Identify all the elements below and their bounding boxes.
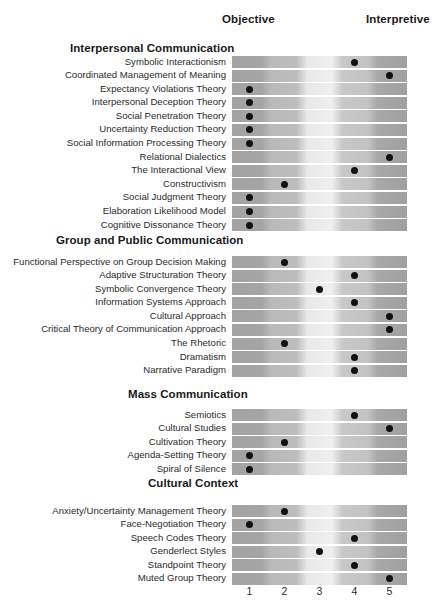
theory-label: Social Judgment Theory [123,191,226,203]
theory-row: Functional Perspective on Group Decision… [0,256,444,268]
theory-row: Cultivation Theory [0,436,444,448]
placement-dot [351,412,358,419]
theory-row: The Interactional View [0,165,444,177]
objective-interpretive-gradient-bar [232,283,407,295]
objective-interpretive-gradient-bar [232,56,407,68]
x-tick-1: 1 [247,585,253,597]
theory-label: Agenda-Setting Theory [128,449,227,461]
objective-interpretive-gradient-bar [232,409,407,421]
theory-row: Uncertainty Reduction Theory [0,124,444,136]
objective-interpretive-gradient-bar [232,270,407,282]
theory-label: Constructivism [163,178,226,190]
placement-dot [316,548,323,555]
objective-interpretive-gradient-bar [232,351,407,363]
objective-interpretive-gradient-bar [232,310,407,322]
objective-interpretive-gradient-bar [232,532,407,544]
theory-row: Social Penetration Theory [0,110,444,122]
placement-dot [351,59,358,66]
placement-dot [246,208,253,215]
section-rows: Functional Perspective on Group Decision… [0,256,444,378]
theory-row: Critical Theory of Communication Approac… [0,324,444,336]
theory-label: Genderlect Styles [150,545,226,557]
objective-interpretive-gradient-bar [232,365,407,377]
theory-row: Genderlect Styles [0,546,444,558]
objective-interpretive-gradient-bar [232,436,407,448]
theory-row: Semiotics [0,409,444,421]
placement-dot [386,326,393,333]
objective-interpretive-gradient-bar [232,70,407,82]
placement-dot [386,313,393,320]
theory-label: Interpersonal Deception Theory [92,96,226,108]
objective-interpretive-gradient-bar [232,83,407,95]
theory-row: Face-Negotiation Theory [0,519,444,531]
theory-label: Speech Codes Theory [131,532,226,544]
objective-interpretive-gradient-bar [232,110,407,122]
placement-dot [281,340,288,347]
objective-interpretive-gradient-bar [232,256,407,268]
theory-label: Social Information Processing Theory [67,137,226,149]
theory-row: Social Information Processing Theory [0,138,444,150]
placement-dot [351,562,358,569]
theory-row: Narrative Paradigm [0,365,444,377]
objective-interpretive-gradient-bar [232,206,407,218]
theory-row: Social Judgment Theory [0,192,444,204]
theory-label: Face-Negotiation Theory [121,518,226,530]
theory-label: Cognitive Dissonance Theory [101,219,226,231]
objective-interpretive-gradient-bar [232,450,407,462]
placement-dot [246,113,253,120]
placement-dot [316,286,323,293]
theory-row: Expectancy Violations Theory [0,83,444,95]
theory-label: Symbolic Interactionism [125,56,226,68]
placement-dot [386,425,393,432]
theory-label: Cultural Approach [150,310,226,322]
placement-dot [281,259,288,266]
theory-row: Elaboration Likelihood Model [0,206,444,218]
placement-dot [351,535,358,542]
objective-interpretive-gradient-bar [232,423,407,435]
theory-label: Symbolic Convergence Theory [95,283,226,295]
theory-row: Cognitive Dissonance Theory [0,219,444,231]
placement-dot [281,508,288,515]
placement-dot [246,86,253,93]
placement-dot [351,299,358,306]
placement-dot [386,72,393,79]
x-tick-4: 4 [352,585,358,597]
theory-row: Adaptive Structuration Theory [0,270,444,282]
section-rows: SemioticsCultural StudiesCultivation The… [0,409,444,477]
theory-label: Anxiety/Uncertainty Management Theory [52,505,226,517]
placement-dot [246,521,253,528]
theory-label: Standpoint Theory [148,559,226,571]
theory-label: Relational Dialectics [140,151,226,163]
axis-label-interpretive: Interpretive [366,13,430,25]
theory-label: Coordinated Management of Meaning [65,69,226,81]
theory-row: The Rhetoric [0,338,444,350]
theory-row: Anxiety/Uncertainty Management Theory [0,505,444,517]
placement-dot [351,167,358,174]
theory-row: Dramatism [0,351,444,363]
theory-row: Interpersonal Deception Theory [0,97,444,109]
placement-dot [246,466,253,473]
theory-row: Symbolic Interactionism [0,56,444,68]
theory-label: Muted Group Theory [138,572,226,584]
placement-dot [246,126,253,133]
placement-dot [351,354,358,361]
theory-label: Expectancy Violations Theory [100,83,226,95]
theory-row: Constructivism [0,178,444,190]
theory-label: Cultivation Theory [149,436,226,448]
objective-interpretive-gradient-bar [232,519,407,531]
x-tick-5: 5 [387,585,393,597]
placement-dot [351,367,358,374]
objective-interpretive-gradient-bar [232,138,407,150]
theory-row: Coordinated Management of Meaning [0,70,444,82]
objective-interpretive-gradient-bar [232,505,407,517]
section-rows: Symbolic InteractionismCoordinated Manag… [0,56,444,233]
objective-interpretive-gradient-bar [232,219,407,231]
theory-row: Speech Codes Theory [0,532,444,544]
section-title: Mass Communication [128,388,248,400]
objective-interpretive-gradient-bar [232,151,407,163]
objective-interpretive-gradient-bar [232,192,407,204]
theory-row: Spiral of Silence [0,463,444,475]
placement-dot [246,222,253,229]
theory-label: Uncertainty Reduction Theory [99,123,226,135]
theory-label: Dramatism [180,351,226,363]
